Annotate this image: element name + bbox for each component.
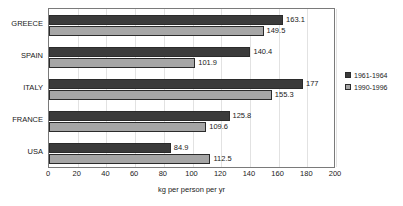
category-label: FRANCE — [0, 116, 43, 124]
legend-swatch-icon — [345, 72, 351, 78]
legend-item[interactable]: 1961-1964 — [345, 70, 387, 80]
bar[interactable] — [49, 79, 303, 89]
x-tick-label: 200 — [329, 170, 342, 178]
legend-item[interactable]: 1990-1996 — [345, 82, 387, 92]
bar[interactable] — [49, 47, 250, 57]
bar-chart: 163.1149.5140.4101.9177155.3125.8109.684… — [0, 0, 403, 206]
bar-row: 112.5 — [49, 154, 232, 164]
bar-value-label: 84.9 — [174, 144, 189, 152]
bar-value-label: 109.6 — [209, 123, 228, 131]
bar-row: 149.5 — [49, 26, 285, 36]
x-tick-label: 120 — [214, 170, 227, 178]
bar-value-label: 112.5 — [213, 155, 231, 163]
bar-row: 163.1 — [49, 15, 305, 25]
bar-group: 125.8109.6 — [49, 105, 334, 137]
bar-row: 177 — [49, 79, 319, 89]
bar[interactable] — [49, 111, 230, 121]
bar-row: 155.3 — [49, 90, 294, 100]
bar-row: 109.6 — [49, 122, 228, 132]
bar-row: 140.4 — [49, 47, 272, 57]
plot-area: 163.1149.5140.4101.9177155.3125.8109.684… — [48, 8, 335, 168]
bar-group: 84.9112.5 — [49, 137, 334, 169]
x-tick-label: 180 — [300, 170, 313, 178]
bar-group: 163.1149.5 — [49, 9, 334, 41]
bar-value-label: 101.9 — [198, 59, 217, 67]
bar-value-label: 155.3 — [275, 91, 294, 99]
bar[interactable] — [49, 26, 264, 36]
chart-legend: 1961-19641990-1996 — [345, 70, 387, 94]
legend-label: 1990-1996 — [354, 84, 387, 91]
bar[interactable] — [49, 154, 210, 164]
x-axis-title: kg per person per yr — [48, 186, 335, 194]
x-tick-label: 60 — [130, 170, 138, 178]
x-tick-label: 160 — [271, 170, 284, 178]
x-tick-label: 140 — [243, 170, 256, 178]
bar-group: 140.4101.9 — [49, 41, 334, 73]
bar[interactable] — [49, 122, 206, 132]
x-tick-label: 80 — [159, 170, 167, 178]
bar[interactable] — [49, 15, 283, 25]
bar[interactable] — [49, 143, 171, 153]
category-label: GREECE — [0, 20, 43, 28]
bar[interactable] — [49, 58, 195, 68]
gridline — [336, 9, 337, 167]
bar-value-label: 163.1 — [286, 16, 305, 24]
category-label: ITALY — [0, 84, 43, 92]
bar-value-label: 125.8 — [233, 112, 252, 120]
x-tick-label: 100 — [185, 170, 198, 178]
bar-value-label: 149.5 — [267, 27, 286, 35]
x-tick-label: 20 — [73, 170, 81, 178]
bar-value-label: 177 — [306, 80, 319, 88]
legend-swatch-icon — [345, 84, 351, 90]
bar-row: 101.9 — [49, 58, 217, 68]
bar-value-label: 140.4 — [253, 48, 272, 56]
category-label: SPAIN — [0, 52, 43, 60]
bar[interactable] — [49, 90, 272, 100]
x-axis-ticks: 020406080100120140160180200 — [48, 170, 335, 182]
bar-row: 84.9 — [49, 143, 188, 153]
x-tick-label: 40 — [101, 170, 109, 178]
bar-groups: 163.1149.5140.4101.9177155.3125.8109.684… — [49, 9, 334, 167]
category-label: USA — [0, 148, 43, 156]
bar-row: 125.8 — [49, 111, 251, 121]
x-tick-label: 0 — [46, 170, 50, 178]
legend-label: 1961-1964 — [354, 72, 387, 79]
bar-group: 177155.3 — [49, 73, 334, 105]
